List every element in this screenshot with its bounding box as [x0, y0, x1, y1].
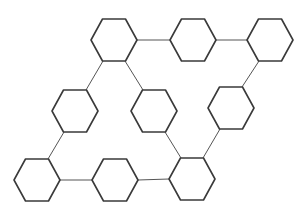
- hexagon-node-h4: [52, 90, 98, 132]
- connector-h1-h4: [86, 61, 103, 90]
- hexagon-node-h1: [91, 19, 137, 61]
- hexagon-node-h8: [92, 159, 138, 201]
- hexagon-node-h5: [131, 90, 177, 132]
- connector-h5-h9: [165, 132, 181, 158]
- connector-h8-h9: [138, 179, 169, 180]
- connector-lines: [48, 40, 259, 180]
- connector-h6-h9: [203, 129, 220, 158]
- hexagon-nodes: [14, 19, 293, 201]
- hexagon-node-h3: [247, 19, 293, 61]
- hexagon-network-diagram: [0, 0, 308, 214]
- hexagon-node-h2: [170, 19, 216, 61]
- connector-h4-h7: [48, 132, 64, 159]
- hexagon-node-h7: [14, 159, 60, 201]
- hexagon-node-h9: [169, 158, 215, 200]
- hexagon-node-h6: [208, 87, 254, 129]
- connector-h3-h6: [242, 61, 259, 87]
- connector-h1-h5: [125, 61, 143, 90]
